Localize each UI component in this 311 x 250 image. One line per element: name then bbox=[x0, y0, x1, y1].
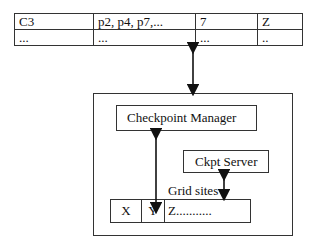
connector-arrows bbox=[0, 0, 311, 250]
